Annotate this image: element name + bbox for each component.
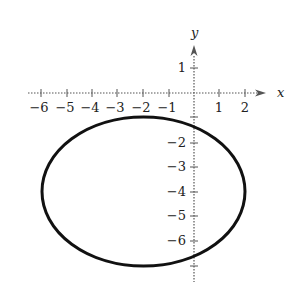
y-axis-label: y <box>190 25 199 40</box>
x-tick-label: −2 <box>131 100 150 115</box>
x-tick-labels: −6 −5 −4 −3 −2 −1 1 2 <box>29 100 249 115</box>
x-tick-label: −1 <box>157 100 176 115</box>
x-tick-label: −5 <box>55 100 74 115</box>
x-tick-label: −3 <box>105 100 124 115</box>
y-tick-label: 1 <box>178 60 186 75</box>
y-tick-label: −3 <box>167 159 186 174</box>
y-axis-arrow-icon <box>191 45 198 56</box>
y-tick-label: −6 <box>167 233 186 248</box>
y-tick-labels: 1 −2 −3 −4 −5 −6 <box>167 60 186 248</box>
x-tick-label: −4 <box>80 100 99 115</box>
x-tick-label: 2 <box>241 100 249 115</box>
y-tick-label: −5 <box>167 208 186 223</box>
y-tick-label: −4 <box>167 184 186 199</box>
ellipse-curve <box>42 117 245 266</box>
x-tick-label: −6 <box>29 100 48 115</box>
x-axis-label: x <box>277 85 285 100</box>
x-tick-label: 1 <box>215 100 223 115</box>
ellipse-graph: y x −6 −5 −4 −3 −2 −1 1 2 1 −2 −3 −4 −5 … <box>0 0 307 287</box>
y-tick-label: −2 <box>167 135 186 150</box>
